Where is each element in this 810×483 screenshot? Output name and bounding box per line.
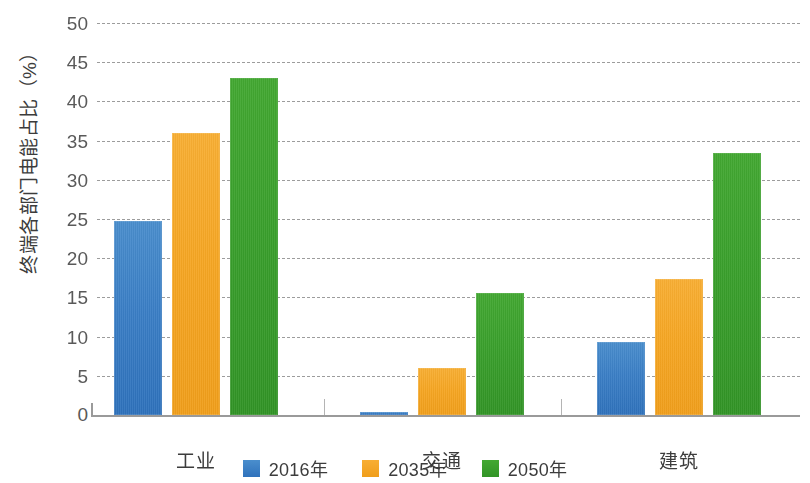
legend-color-swatch xyxy=(482,460,499,477)
y-axis-tick-label: 25 xyxy=(67,210,88,229)
bar[interactable] xyxy=(230,78,278,415)
y-axis-title: 终端各部门电能占比（%） xyxy=(14,3,40,313)
category-separator-tick xyxy=(561,399,562,415)
bar-group xyxy=(360,23,524,415)
bar[interactable] xyxy=(597,342,645,415)
category-separator-tick xyxy=(324,399,325,415)
bar-chart: 终端各部门电能占比（%） 50454035302520151050 工业交通建筑… xyxy=(0,0,810,483)
bar[interactable] xyxy=(713,153,761,415)
bar[interactable] xyxy=(418,368,466,415)
y-axis-tick-label: 30 xyxy=(67,171,88,190)
legend-item[interactable]: 2016年 xyxy=(243,455,329,481)
y-axis-tick-label: 15 xyxy=(67,289,88,308)
chart-legend: 2016年2035年2050年 xyxy=(0,455,810,481)
bar-group xyxy=(114,23,278,415)
bar-group xyxy=(597,23,761,415)
y-axis-tick-label: 5 xyxy=(77,367,88,386)
y-axis-tick-label: 50 xyxy=(67,14,88,33)
bar[interactable] xyxy=(114,221,162,415)
y-axis-tick-label: 35 xyxy=(67,132,88,151)
legend-item[interactable]: 2050年 xyxy=(482,455,568,481)
plot-area: 50454035302520151050 工业交通建筑 xyxy=(97,23,800,415)
legend-label: 2016年 xyxy=(269,455,329,481)
y-axis-tick-label: 20 xyxy=(67,249,88,268)
legend-item[interactable]: 2035年 xyxy=(362,455,448,481)
y-axis-tick-label: 0 xyxy=(77,405,88,424)
x-axis-line xyxy=(91,415,800,417)
legend-color-swatch xyxy=(362,460,379,477)
legend-label: 2035年 xyxy=(388,455,448,481)
bar[interactable] xyxy=(476,293,524,415)
y-axis-line xyxy=(91,403,93,417)
y-axis-tick-label: 40 xyxy=(67,93,88,112)
bar[interactable] xyxy=(655,279,703,415)
legend-label: 2050年 xyxy=(508,455,568,481)
bar[interactable] xyxy=(172,133,220,415)
legend-color-swatch xyxy=(243,460,260,477)
y-axis-tick-label: 45 xyxy=(67,53,88,72)
y-axis-tick-label: 10 xyxy=(67,328,88,347)
